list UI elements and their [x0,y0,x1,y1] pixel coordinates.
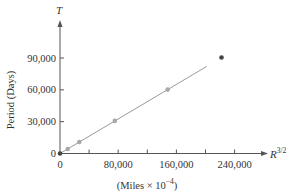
data-point [77,140,82,145]
x-tick-label: 240,000 [218,159,252,170]
x-tick-label: 0 [57,159,62,170]
data-point [113,119,118,124]
y-axis-title: Period (Days) [5,70,17,129]
data-point [219,55,224,60]
y-axis-variable: T [56,4,63,16]
y-tick-label: 90,000 [27,53,56,64]
data-point [65,147,70,152]
data-point [165,87,170,92]
y-tick-label: 30,000 [27,116,56,127]
x-axis-arrow-icon [261,151,268,156]
chart: 080,000160,000240,000030,00060,00090,000… [0,0,307,195]
x-tick-label: 160,000 [159,159,193,170]
fit-line [60,66,207,153]
y-tick-label: 0 [51,148,56,159]
y-axis-arrow-icon [58,20,63,27]
data-point [58,151,63,156]
x-axis-variable: R3/2 [269,146,287,160]
x-tick-label: 80,000 [104,159,133,170]
x-axis-units: (Miles × 10−4) [117,177,178,192]
y-tick-label: 60,000 [27,84,56,95]
